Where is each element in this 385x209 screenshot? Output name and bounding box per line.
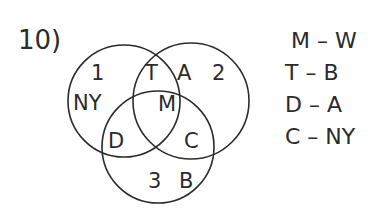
region-only-1: NY [73,91,102,115]
circle-2-number: 2 [212,61,225,85]
pair-item: C – NY [285,121,357,153]
region-2-and-3: C [184,129,199,153]
pair-item: D – A [285,89,357,121]
region-1-and-2: T [144,61,158,85]
region-only-3: B [179,169,193,193]
pair-item: M – W [285,25,357,57]
region-1-and-3: D [108,129,124,153]
circle-1-number: 1 [91,61,104,85]
circle-3-number: 3 [148,169,161,193]
pair-item: T – B [285,57,357,89]
region-2-a: A [177,61,192,85]
pair-list: M – W T – B D – A C – NY [285,25,357,153]
region-center: M [158,92,176,116]
